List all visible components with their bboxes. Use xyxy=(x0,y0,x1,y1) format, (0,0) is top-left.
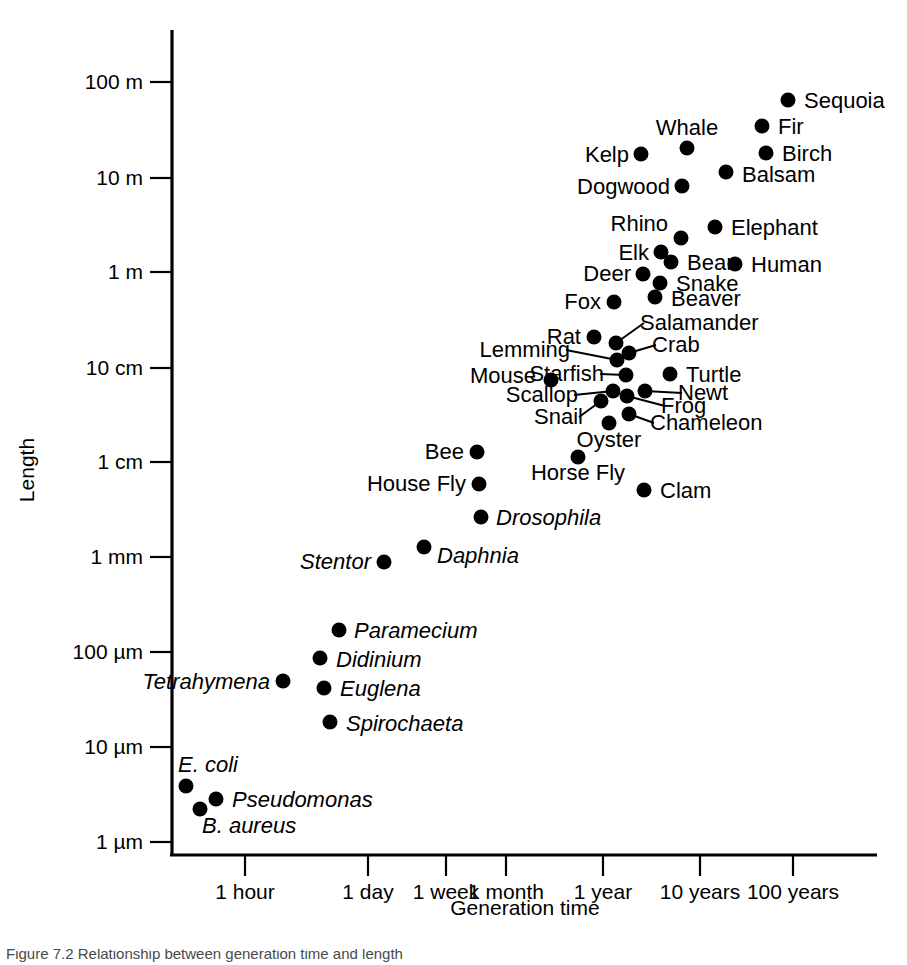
data-point-label: Kelp xyxy=(585,142,629,167)
data-point-label: Beaver xyxy=(671,286,741,311)
data-point xyxy=(663,367,678,382)
data-point xyxy=(209,792,224,807)
x-tick-label: 1 day xyxy=(342,880,394,903)
y-tick-label: 10 cm xyxy=(86,356,143,379)
data-point xyxy=(609,336,624,351)
data-point xyxy=(607,295,622,310)
data-point xyxy=(332,623,347,638)
data-point xyxy=(313,651,328,666)
data-point-label: Oyster xyxy=(577,427,642,452)
y-tick-label: 1 m xyxy=(108,260,143,283)
data-point-label: Rhino xyxy=(611,211,668,236)
data-point xyxy=(680,141,695,156)
figure-caption: Figure 7.2 Relationship between generati… xyxy=(0,949,907,965)
data-point xyxy=(755,119,770,134)
data-point-label: Lemming xyxy=(480,337,570,362)
data-point-label: Dogwood xyxy=(577,174,670,199)
data-point xyxy=(317,681,332,696)
data-point-label: Clam xyxy=(660,478,711,503)
figure-caption-text: Figure 7.2 Relationship between generati… xyxy=(0,949,907,962)
y-tick-label: 10 µm xyxy=(84,735,143,758)
data-point xyxy=(594,394,609,409)
data-point xyxy=(179,779,194,794)
y-tick-label: 1 mm xyxy=(91,545,144,568)
y-tick-label: 100 µm xyxy=(73,640,143,663)
data-point xyxy=(587,330,602,345)
data-point xyxy=(620,389,635,404)
data-point-label: House Fly xyxy=(367,471,466,496)
data-point-label: Snail xyxy=(534,404,583,429)
data-point-label: Whale xyxy=(656,115,718,140)
data-point-label: Bee xyxy=(425,439,464,464)
data-point-label: Drosophila xyxy=(496,505,601,530)
figure-container: 100 m10 m1 m10 cm1 cm1 mm100 µm10 µm1 µm… xyxy=(0,0,907,965)
data-point xyxy=(638,384,653,399)
leader-line xyxy=(566,350,617,360)
y-axis-title: Length xyxy=(15,438,38,502)
data-point xyxy=(636,267,651,282)
data-point-label: Fox xyxy=(564,289,601,314)
data-point-label: Sequoia xyxy=(804,88,886,113)
data-point xyxy=(377,555,392,570)
data-point xyxy=(653,276,668,291)
data-point xyxy=(622,346,637,361)
data-points xyxy=(179,93,796,817)
x-tick-label: 100 years xyxy=(747,880,839,903)
data-point-label: Deer xyxy=(583,261,631,286)
data-point-label: Crab xyxy=(652,332,700,357)
data-point-label: Horse Fly xyxy=(531,460,625,485)
data-point xyxy=(637,483,652,498)
y-tick-label: 100 m xyxy=(85,70,143,93)
y-tick-label: 1 cm xyxy=(97,450,143,473)
data-point xyxy=(622,407,637,422)
data-point-label: Euglena xyxy=(340,676,421,701)
scatter-plot: 100 m10 m1 m10 cm1 cm1 mm100 µm10 µm1 µm… xyxy=(0,0,907,965)
data-point xyxy=(759,146,774,161)
data-point xyxy=(648,290,663,305)
data-point xyxy=(781,93,796,108)
data-point xyxy=(606,384,621,399)
x-tick-label: 1 hour xyxy=(215,880,275,903)
data-point xyxy=(417,540,432,555)
data-point xyxy=(472,477,487,492)
data-point-label: Didinium xyxy=(336,647,422,672)
data-point-label: Stentor xyxy=(300,549,373,574)
data-point xyxy=(634,147,649,162)
x-axis-title: Generation time xyxy=(450,896,599,919)
data-point-label: Fir xyxy=(778,114,804,139)
data-point-label: Spirochaeta xyxy=(346,711,463,736)
data-point-label: Daphnia xyxy=(437,543,519,568)
data-point xyxy=(675,179,690,194)
data-point-labels: SequoiaFirWhaleBirchKelpBalsamDogwoodRhi… xyxy=(142,88,885,838)
data-point xyxy=(276,674,291,689)
data-point-label: Paramecium xyxy=(354,618,477,643)
data-point-label: Pseudomonas xyxy=(232,787,373,812)
data-point-label: Tetrahymena xyxy=(142,669,270,694)
data-point xyxy=(470,445,485,460)
x-tick-label: 10 years xyxy=(660,880,741,903)
data-point xyxy=(719,165,734,180)
data-point-label: Human xyxy=(751,252,822,277)
data-point xyxy=(708,220,723,235)
data-point-label: Chameleon xyxy=(650,410,763,435)
data-point xyxy=(323,715,338,730)
y-tick-label: 1 µm xyxy=(96,830,143,853)
data-point-label: B. aureus xyxy=(202,813,296,838)
data-point-label: Elephant xyxy=(731,215,818,240)
data-point xyxy=(674,231,689,246)
data-point xyxy=(619,368,634,383)
y-tick-label: 10 m xyxy=(96,166,143,189)
data-point xyxy=(474,510,489,525)
data-point-label: Balsam xyxy=(742,162,815,187)
y-axis-ticks: 100 m10 m1 m10 cm1 cm1 mm100 µm10 µm1 µm xyxy=(73,70,171,853)
data-point xyxy=(664,255,679,270)
data-point-label: E. coli xyxy=(178,752,239,777)
